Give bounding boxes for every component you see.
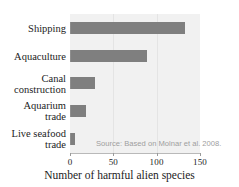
plot-area [70,14,200,153]
x-axis-tick-label: 100 [150,157,164,167]
y-axis-label-line: trade [0,139,66,150]
y-axis-label: Shipping [0,22,66,33]
bar [70,133,75,145]
y-axis-label-line: Live seafood [0,128,66,139]
bar-row [70,97,200,125]
y-axis-label: Aquariumtrade [0,100,66,122]
x-axis-tick-mark [200,153,201,156]
source-annotation: Source: Based on Molnar et al. 2008. [96,139,221,148]
x-axis-tick-label: 50 [109,157,118,167]
x-axis-tick-label: 150 [193,157,207,167]
x-axis-tick-mark [70,153,71,156]
y-axis-label-line: Aquaculture [0,50,66,61]
y-axis-label-line: trade [0,111,66,122]
x-axis-line [70,153,200,154]
y-axis-label-line: Shipping [0,22,66,33]
x-axis-tick-label: 0 [68,157,73,167]
bar [70,105,86,117]
bar [70,77,95,89]
bar-row [70,70,200,98]
y-axis-label-line: construction [0,84,66,95]
y-axis-category-labels: ShippingAquacultureCanalconstructionAqua… [0,14,66,153]
y-axis-label: Aquaculture [0,50,66,61]
x-axis-title: Number of harmful alien species [0,169,239,181]
bar [70,50,147,62]
y-axis-label: Canalconstruction [0,73,66,95]
x-axis-tick-mark [113,153,114,156]
y-axis-label-line: Canal [0,73,66,84]
y-axis-label-line: Aquarium [0,100,66,111]
bar-chart-figure: ShippingAquacultureCanalconstructionAqua… [0,0,239,187]
bar [70,22,185,34]
x-axis-tick-mark [157,153,158,156]
y-axis-label: Live seafoodtrade [0,128,66,150]
bar-row [70,14,200,42]
bar-row [70,42,200,70]
